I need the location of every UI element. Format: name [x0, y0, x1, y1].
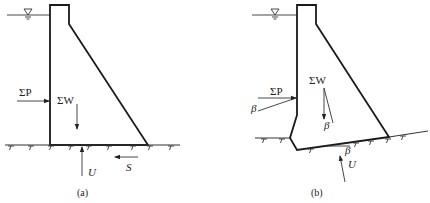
dam-outline-b	[290, 5, 389, 150]
water-pressure-label-b: ΣP	[270, 85, 283, 97]
angle-beta-base: β	[344, 144, 351, 156]
angle-beta-p: β	[250, 102, 257, 114]
dam-outline-a	[50, 5, 148, 145]
angle-beta-w: β	[323, 119, 330, 131]
foundation-ground-b	[255, 131, 428, 153]
weight-label-a: ΣW	[57, 94, 74, 106]
uplift-label-a: U	[88, 166, 97, 178]
water-level-symbol-b	[252, 9, 297, 19]
caption-a: (a)	[77, 187, 88, 199]
water-pressure-label-a: ΣP	[19, 86, 32, 98]
caption-b: (b)	[311, 187, 323, 199]
water-level-symbol-a	[7, 9, 50, 19]
weight-label-b: ΣW	[309, 74, 326, 86]
shear-label-a: S	[126, 161, 132, 173]
panel-b: ΣP β ΣW β β U (b)	[250, 5, 428, 199]
panel-a: ΣP ΣW U S (a)	[5, 5, 180, 199]
water-pressure-incline-line	[258, 98, 296, 111]
weight-incline-line	[324, 88, 333, 123]
uplift-arrow-b	[340, 156, 345, 182]
dam-force-diagram: ΣP ΣW U S (a)	[0, 0, 430, 203]
uplift-label-b: U	[348, 158, 357, 170]
